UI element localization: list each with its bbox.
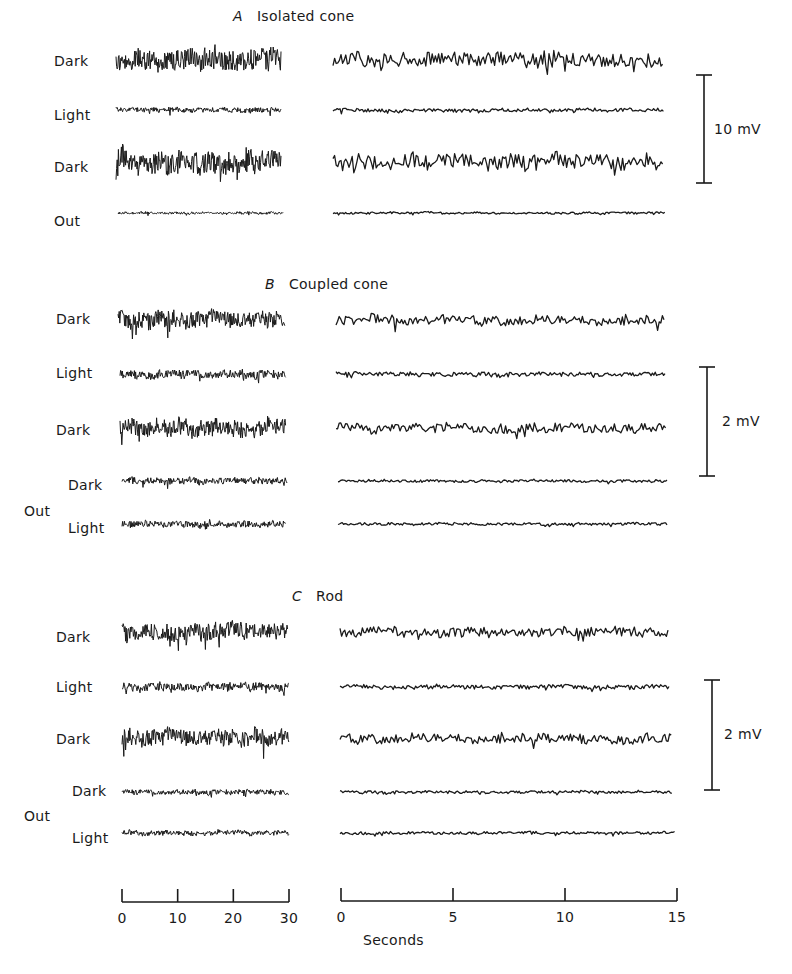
- group-label-out: Out: [24, 808, 50, 824]
- trace-fast-C-0: [340, 626, 668, 641]
- trace-slow-C-3: [122, 789, 289, 797]
- trace-fast-A-0: [333, 51, 663, 75]
- trace-fast-C-3: [340, 790, 672, 795]
- trace-slow-A-0: [116, 45, 281, 73]
- trace-slow-A-3: [118, 212, 283, 216]
- trace-label: Dark: [56, 422, 90, 438]
- axis-tick-label: 0: [336, 909, 345, 925]
- trace-fast-A-3: [333, 212, 665, 216]
- trace-slow-B-0: [118, 309, 285, 339]
- trace-slow-A-1: [116, 107, 281, 116]
- panel-letter: C: [292, 588, 302, 604]
- trace-label: Dark: [56, 311, 90, 327]
- trace-fast-C-1: [340, 684, 669, 692]
- trace-fast-B-0: [336, 314, 664, 332]
- axis-tick-label: 30: [280, 910, 298, 926]
- figure: AIsolated coneDarkLightDarkOut10 mVBCoup…: [0, 0, 792, 974]
- trace-label: Dark: [56, 731, 90, 747]
- trace-label: Dark: [54, 159, 88, 175]
- axis-tick-label: 10: [168, 910, 186, 926]
- trace-slow-B-2: [120, 416, 286, 445]
- trace-label: Light: [72, 830, 108, 846]
- axis-tick-label: 10: [556, 909, 574, 925]
- trace-fast-B-1: [336, 372, 665, 378]
- panel-title-text: Isolated cone: [257, 8, 355, 24]
- trace-canvas: [0, 0, 792, 974]
- trace-fast-A-2: [333, 152, 663, 176]
- axis-tick-label: 5: [448, 909, 457, 925]
- trace-label: Dark: [72, 783, 106, 799]
- trace-label: Light: [54, 107, 90, 123]
- panel-title-text: Coupled cone: [289, 276, 388, 292]
- trace-label: Light: [68, 520, 104, 536]
- trace-label: Dark: [54, 53, 88, 69]
- axis-tick-label: 0: [117, 910, 126, 926]
- trace-fast-C-4: [340, 831, 675, 836]
- scale-bar-label: 10 mV: [714, 121, 761, 137]
- panel-title-B: BCoupled cone: [265, 276, 388, 292]
- group-label-out: Out: [24, 503, 50, 519]
- axis-tick-label: 15: [668, 909, 686, 925]
- trace-slow-C-1: [122, 682, 289, 696]
- trace-fast-B-3: [338, 479, 667, 484]
- scale-bar-label: 2 mV: [724, 726, 762, 742]
- trace-fast-B-4: [338, 522, 667, 526]
- trace-slow-B-4: [122, 519, 286, 529]
- trace-slow-A-2: [116, 144, 281, 182]
- panel-title-text: Rod: [316, 588, 343, 604]
- trace-fast-B-2: [336, 422, 666, 438]
- panel-letter: B: [265, 276, 275, 292]
- axis-tick-label: 20: [224, 910, 242, 926]
- trace-slow-B-3: [122, 477, 287, 489]
- x-axis-label: Seconds: [363, 932, 424, 948]
- trace-slow-C-2: [122, 727, 289, 759]
- trace-label: Light: [56, 679, 92, 695]
- panel-letter: A: [233, 8, 243, 24]
- trace-slow-C-0: [122, 620, 288, 650]
- trace-label: Dark: [68, 477, 102, 493]
- trace-label: Out: [54, 213, 80, 229]
- panel-title-A: AIsolated cone: [233, 8, 354, 24]
- trace-fast-A-1: [333, 108, 663, 114]
- trace-fast-C-2: [340, 733, 671, 749]
- scale-bar-label: 2 mV: [722, 413, 760, 429]
- trace-slow-C-4: [122, 829, 289, 836]
- trace-slow-B-1: [120, 369, 286, 383]
- panel-title-C: CRod: [292, 588, 344, 604]
- trace-label: Dark: [56, 629, 90, 645]
- trace-label: Light: [56, 365, 92, 381]
